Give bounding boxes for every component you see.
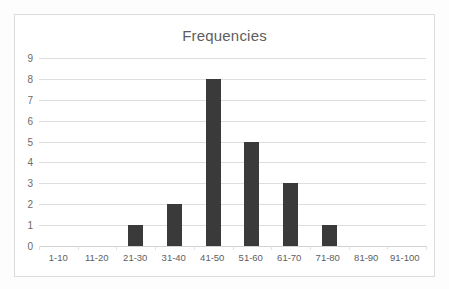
x-axis-tick — [116, 246, 117, 250]
y-axis-tick-label: 5 — [27, 136, 33, 147]
x-axis-category-label: 81-90 — [347, 252, 386, 263]
x-axis-tick — [155, 246, 156, 250]
bar-slot — [39, 58, 78, 246]
bar-slot — [116, 58, 155, 246]
bar[interactable] — [167, 204, 182, 246]
y-axis-tick-label: 7 — [27, 94, 33, 105]
x-axis-tick — [194, 246, 195, 250]
x-axis-category-label: 31-40 — [155, 252, 194, 263]
x-axis-category-label: 41-50 — [193, 252, 232, 263]
chart-frame: Frequencies 9876543210 1-1011-2021-3031-… — [14, 14, 435, 277]
bar-slot — [349, 58, 388, 246]
bar-slot — [194, 58, 233, 246]
x-axis-category-label: 51-60 — [232, 252, 271, 263]
x-axis-category-label: 11-20 — [78, 252, 117, 263]
bar-slot — [78, 58, 117, 246]
bar-slot — [233, 58, 272, 246]
y-axis-tick-label: 6 — [27, 115, 33, 126]
plot-area: 9876543210 — [39, 58, 426, 246]
x-axis-tick — [233, 246, 234, 250]
y-axis-tick-label: 2 — [27, 199, 33, 210]
y-axis-tick-label: 9 — [27, 53, 33, 64]
bar[interactable] — [244, 142, 259, 246]
x-axis-tick — [78, 246, 79, 250]
bar[interactable] — [206, 79, 221, 246]
y-axis-tick-label: 8 — [27, 73, 33, 84]
bar[interactable] — [322, 225, 337, 246]
y-axis-tick-label: 4 — [27, 157, 33, 168]
y-axis-tick-label: 3 — [27, 178, 33, 189]
x-axis-category-label: 61-70 — [270, 252, 309, 263]
x-axis-category-label: 71-80 — [309, 252, 348, 263]
x-axis-category-label: 1-10 — [39, 252, 78, 263]
y-axis-tick-label: 0 — [27, 241, 33, 252]
y-axis-tick-label: 1 — [27, 220, 33, 231]
x-axis-tick — [349, 246, 350, 250]
x-axis-tick — [426, 246, 427, 250]
bar-slot — [310, 58, 349, 246]
bar-slot — [387, 58, 426, 246]
x-axis-category-label: 21-30 — [116, 252, 155, 263]
bar-series — [39, 58, 426, 246]
x-axis-tick — [271, 246, 272, 250]
x-axis-ticks — [39, 246, 426, 250]
bar[interactable] — [283, 183, 298, 246]
x-axis-tick — [387, 246, 388, 250]
chart-title: Frequencies — [15, 27, 434, 44]
bar-slot — [155, 58, 194, 246]
bar[interactable] — [128, 225, 143, 246]
x-axis-tick — [39, 246, 40, 250]
x-axis-tick — [310, 246, 311, 250]
x-axis-labels: 1-1011-2021-3031-4041-5051-6061-7071-808… — [39, 252, 424, 263]
bar-slot — [271, 58, 310, 246]
x-axis-category-label: 91-100 — [386, 252, 425, 263]
